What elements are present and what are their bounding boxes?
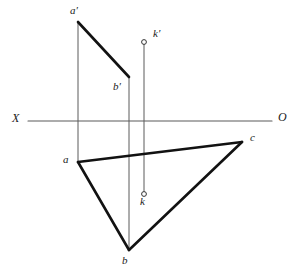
point-label-k-prime: k′ xyxy=(153,28,160,39)
marker-k-prime-icon xyxy=(142,40,147,45)
segment-a-c xyxy=(78,142,242,162)
axis-label-x: X xyxy=(12,112,19,124)
point-label-c: c xyxy=(250,132,255,143)
point-label-a: a xyxy=(63,154,69,165)
point-label-b-prime: b′ xyxy=(113,81,121,92)
segment-a-b xyxy=(78,162,129,250)
point-label-b: b xyxy=(122,255,128,266)
projection-figure: X O a′ b′ k′ a b c k xyxy=(0,0,298,276)
point-label-k: k xyxy=(140,196,145,207)
point-label-a-prime: a′ xyxy=(70,5,78,16)
segment-a-prime-b-prime xyxy=(78,22,129,77)
axis-label-o: O xyxy=(278,111,287,123)
